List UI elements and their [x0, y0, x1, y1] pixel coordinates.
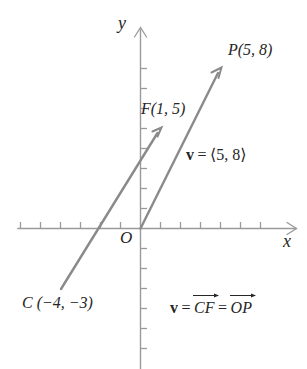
vector-OP-start-letter: O	[231, 299, 243, 316]
vector-identity-equation: v=CF=OP	[170, 300, 252, 316]
vector-CF-end-letter: F	[205, 299, 215, 316]
point-label-F: F(1, 5)	[141, 101, 185, 117]
vector-components-value: ⟨5, 8⟩	[210, 146, 246, 163]
origin-label: O	[120, 229, 132, 246]
axis-group	[18, 30, 296, 369]
overarrow-tip-icon	[214, 294, 219, 298]
vector-diagram-figure: y x O P(5, 8) F(1, 5) C (−4, −3) v=⟨5, 8…	[0, 0, 307, 369]
vector-CF-overarrow-label: CF	[194, 300, 214, 316]
point-label-P: P(5, 8)	[228, 42, 272, 58]
vector-CF-start-letter: C	[194, 299, 205, 316]
x-axis-label: x	[283, 232, 291, 250]
overarrow-tip-icon-2	[251, 294, 256, 298]
vector-symbol-v: v	[186, 146, 194, 163]
y-axis-label: y	[118, 14, 126, 32]
equals-sign-1: =	[182, 299, 191, 316]
equals-sign-2: =	[218, 299, 227, 316]
equals-sign: =	[198, 146, 207, 163]
vector-symbol-v-2: v	[170, 299, 178, 316]
vector-components-label: v=⟨5, 8⟩	[186, 147, 247, 163]
vector-OP-end-letter: P	[242, 299, 252, 316]
point-label-C: C (−4, −3)	[22, 295, 93, 311]
vector-OP-overarrow-label: OP	[231, 300, 252, 316]
